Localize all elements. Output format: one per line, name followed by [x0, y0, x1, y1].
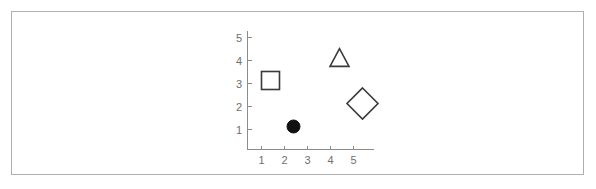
scatter-plot: 1 2 3 4 5 1 2 3 4 5 [12, 12, 585, 176]
x-tick-label-3: 3 [304, 154, 310, 166]
x-tick-label-2: 2 [281, 154, 287, 166]
scatter-plot-svg: 1 2 3 4 5 1 2 3 4 5 [12, 12, 585, 176]
figure-frame: 1 2 3 4 5 1 2 3 4 5 [11, 11, 584, 175]
x-tick-labels: 1 2 3 4 5 [258, 154, 356, 166]
x-axis-ticks [262, 146, 354, 150]
data-markers [262, 49, 379, 133]
x-tick-label-1: 1 [258, 154, 264, 166]
y-tick-label-3: 3 [236, 78, 242, 90]
y-tick-label-4: 4 [236, 55, 242, 67]
y-tick-label-5: 5 [236, 32, 242, 44]
marker-square [262, 72, 280, 90]
marker-triangle [330, 49, 349, 67]
x-tick-label-4: 4 [327, 154, 333, 166]
x-tick-label-5: 5 [350, 154, 356, 166]
y-tick-label-1: 1 [236, 124, 242, 136]
marker-diamond [347, 88, 378, 119]
y-tick-label-2: 2 [236, 101, 242, 113]
y-axis-ticks [248, 38, 252, 130]
marker-circle [287, 120, 300, 133]
y-tick-labels: 1 2 3 4 5 [236, 32, 242, 136]
